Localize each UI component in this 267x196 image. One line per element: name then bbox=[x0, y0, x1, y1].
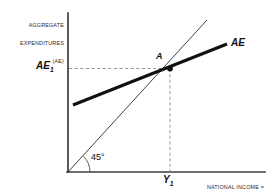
equilibrium-point-marker bbox=[167, 66, 173, 72]
angle-arc-icon bbox=[84, 156, 90, 172]
y-axis-title-line1: AGGREGATE bbox=[8, 22, 64, 28]
y-axis-title-line2: EXPENDITURES bbox=[8, 40, 64, 46]
y1-tick-label: Y1 bbox=[163, 174, 173, 188]
equilibrium-point-label: A bbox=[156, 51, 163, 61]
ae1-tick-label-subscript: 1 bbox=[50, 66, 54, 73]
angle-label: 45° bbox=[91, 152, 105, 162]
x-axis-title-line1: NATIONAL INCOME = bbox=[190, 184, 264, 190]
y1-tick-label-base: Y bbox=[163, 174, 170, 185]
ae1-tick-label-base: AE bbox=[36, 60, 50, 71]
x-axis-title: NATIONAL INCOME = OUTPUT (Y) bbox=[190, 172, 264, 196]
equilibrium-guides bbox=[69, 69, 170, 172]
keynesian-cross-figure: AGGREGATE EXPENDITURES (AE) NATIONAL INC… bbox=[0, 0, 267, 196]
y1-tick-label-subscript: 1 bbox=[170, 180, 174, 187]
ae-curve bbox=[73, 44, 227, 105]
ae1-tick-label: AE1 bbox=[36, 60, 54, 74]
forty-five-degree-line bbox=[68, 20, 207, 172]
ae-curve-label: AE bbox=[231, 37, 245, 48]
